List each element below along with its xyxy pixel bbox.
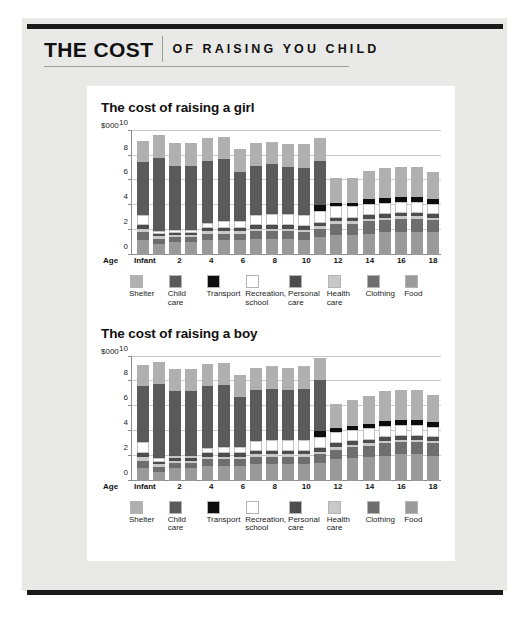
stacked-bar[interactable] bbox=[298, 366, 310, 480]
stacked-bar[interactable] bbox=[411, 390, 423, 481]
bar-segment bbox=[153, 244, 165, 255]
bar-segment bbox=[330, 224, 342, 235]
legend-item[interactable]: Transport bbox=[204, 275, 243, 308]
bar-slot bbox=[216, 131, 232, 255]
stacked-bar[interactable] bbox=[347, 400, 359, 481]
bar-segment bbox=[250, 231, 262, 238]
bar-segment bbox=[314, 380, 326, 431]
bar-segment bbox=[379, 391, 391, 421]
bar-slot bbox=[216, 357, 232, 481]
masthead: THE COST OF RAISING YOU CHILD bbox=[44, 33, 464, 65]
stacked-bar[interactable] bbox=[282, 368, 294, 481]
stacked-bar[interactable] bbox=[330, 178, 342, 255]
legend-label: Health care bbox=[327, 290, 350, 308]
legend-item[interactable]: Health care bbox=[325, 501, 364, 534]
stacked-bar[interactable] bbox=[234, 375, 246, 480]
stacked-bar[interactable] bbox=[363, 396, 375, 480]
legend-item[interactable]: Recreation, school bbox=[243, 275, 286, 308]
legend-item[interactable]: Recreation, school bbox=[243, 501, 286, 534]
stacked-bar[interactable] bbox=[314, 358, 326, 481]
stacked-bar[interactable] bbox=[282, 144, 294, 254]
stacked-bar[interactable] bbox=[202, 138, 214, 255]
stacked-bar[interactable] bbox=[185, 143, 197, 255]
bar-segment bbox=[395, 167, 407, 197]
bar-segment bbox=[266, 389, 278, 440]
y-axis-tick-label: 2 bbox=[124, 442, 128, 451]
x-axis-tick-label: 14 bbox=[362, 256, 378, 265]
legend-item[interactable]: Shelter bbox=[127, 501, 166, 534]
stacked-bar[interactable] bbox=[298, 144, 310, 254]
legend-item[interactable]: Clothing bbox=[364, 501, 403, 534]
bar-segment bbox=[185, 391, 197, 455]
bar-segment bbox=[363, 221, 375, 233]
bar-segment bbox=[202, 364, 214, 386]
legend-label: Recreation, school bbox=[245, 516, 286, 534]
bar-segment bbox=[298, 144, 310, 168]
stacked-bar[interactable] bbox=[314, 138, 326, 255]
legend-swatch-health-care bbox=[328, 275, 341, 288]
bar-slot bbox=[377, 131, 393, 255]
bar-segment bbox=[347, 447, 359, 458]
stacked-bar[interactable] bbox=[137, 365, 149, 480]
stacked-bar[interactable] bbox=[153, 361, 165, 480]
bar-segment bbox=[234, 397, 246, 447]
legend-item[interactable]: Food bbox=[402, 275, 441, 308]
legend-item[interactable]: Child care bbox=[166, 501, 205, 534]
stacked-bar[interactable] bbox=[411, 167, 423, 255]
stacked-bar[interactable] bbox=[395, 390, 407, 481]
legend-item[interactable]: Child care bbox=[166, 275, 205, 308]
stacked-bar[interactable] bbox=[250, 143, 262, 255]
legend-label: Health care bbox=[327, 516, 350, 534]
stacked-bar[interactable] bbox=[363, 170, 375, 254]
stacked-bar[interactable] bbox=[427, 172, 439, 255]
legend-label: Food bbox=[404, 516, 422, 525]
bar-segment bbox=[169, 166, 181, 230]
bar-segment bbox=[363, 396, 375, 423]
bar-segment bbox=[363, 171, 375, 200]
legend-item[interactable]: Clothing bbox=[364, 275, 403, 308]
stacked-bar[interactable] bbox=[250, 368, 262, 481]
bar-segment bbox=[282, 440, 294, 451]
stacked-bar[interactable] bbox=[169, 143, 181, 255]
stacked-bar[interactable] bbox=[234, 149, 246, 254]
legend-item[interactable]: Transport bbox=[204, 501, 243, 534]
bar-segment bbox=[218, 240, 230, 255]
x-axis-tick-label bbox=[156, 482, 172, 491]
stacked-bar[interactable] bbox=[169, 369, 181, 481]
legend-item[interactable]: Health care bbox=[325, 275, 364, 308]
legend-item[interactable]: Food bbox=[402, 501, 441, 534]
legend-item[interactable]: Personal care bbox=[286, 501, 325, 534]
charts-host: The cost of raising a girl$0000246810Age… bbox=[87, 86, 455, 533]
y-axis-tick-label: 10 bbox=[119, 343, 128, 352]
stacked-bar[interactable] bbox=[266, 142, 278, 255]
stacked-bar[interactable] bbox=[379, 168, 391, 255]
bar-slot bbox=[409, 357, 425, 481]
stacked-bar[interactable] bbox=[427, 395, 439, 481]
stacked-bar[interactable] bbox=[266, 366, 278, 480]
stacked-bar[interactable] bbox=[218, 137, 230, 255]
legend-item[interactable]: Shelter bbox=[127, 275, 166, 308]
chart-panel: The cost of raising a girl$0000246810Age… bbox=[87, 86, 455, 561]
bar-segment bbox=[298, 215, 310, 226]
bar-slot bbox=[280, 131, 296, 255]
bar-segment bbox=[427, 204, 439, 214]
stacked-bar[interactable] bbox=[137, 141, 149, 255]
legend-label: Child care bbox=[168, 516, 186, 534]
stacked-bar[interactable] bbox=[347, 178, 359, 255]
bar-segment bbox=[330, 459, 342, 480]
stacked-bar[interactable] bbox=[379, 391, 391, 480]
plot-area: 0246810 bbox=[101, 357, 441, 481]
stacked-bar[interactable] bbox=[218, 363, 230, 481]
stacked-bar[interactable] bbox=[330, 404, 342, 481]
stacked-bar[interactable] bbox=[202, 364, 214, 481]
bar-segment bbox=[363, 204, 375, 215]
bar-segment bbox=[347, 400, 359, 426]
legend-item[interactable]: Personal care bbox=[286, 275, 325, 308]
stacked-bar[interactable] bbox=[153, 135, 165, 255]
stacked-bar[interactable] bbox=[185, 369, 197, 481]
legend-swatch-food bbox=[405, 275, 418, 288]
chart-title: The cost of raising a girl bbox=[101, 100, 441, 115]
top-rule bbox=[27, 24, 503, 29]
stacked-bar[interactable] bbox=[395, 167, 407, 255]
bar-segment bbox=[282, 390, 294, 440]
